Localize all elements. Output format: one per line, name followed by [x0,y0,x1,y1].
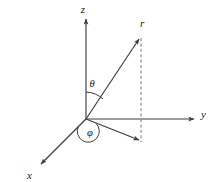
axis-x-label: x [26,169,32,181]
vector-r-label: r [140,17,145,29]
axis-y-label: y [200,108,206,120]
angle-phi-label: φ [87,127,93,138]
spherical-coordinates-figure: z y x r θ φ [0,0,210,182]
axis-x-line [41,119,86,164]
diagram-canvas: z y x r θ φ [0,0,210,182]
angle-theta-label: θ [89,78,94,89]
axis-z-label: z [80,3,86,15]
vector-projection-line [86,119,139,140]
